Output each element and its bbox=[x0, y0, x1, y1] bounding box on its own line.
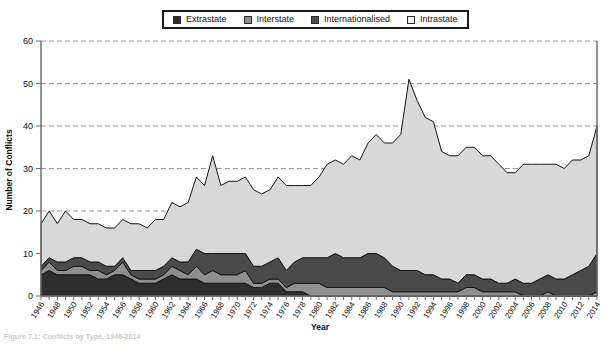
x-tick-label: 1990 bbox=[389, 300, 406, 320]
x-tick-label: 1946 bbox=[29, 300, 46, 320]
x-tick-label: 1956 bbox=[111, 300, 128, 320]
y-tick-labels: 0102030405060 bbox=[23, 36, 33, 301]
x-tick-label: 2006 bbox=[520, 300, 537, 320]
x-tick-label: 1958 bbox=[127, 300, 144, 320]
x-tick-labels: 1946194819501952195419561958196019621964… bbox=[29, 300, 602, 320]
legend-item-internationalised[interactable]: Internationalised bbox=[311, 15, 390, 24]
x-tick-label: 2010 bbox=[552, 300, 569, 320]
legend-item-interstate[interactable]: Interstate bbox=[244, 15, 295, 24]
x-tick-label: 1978 bbox=[291, 300, 308, 320]
y-tick-label: 0 bbox=[28, 291, 33, 301]
x-tick-label: 1960 bbox=[144, 300, 161, 320]
y-axis-title: Number of Conflicts bbox=[4, 129, 14, 210]
x-tick-label: 2004 bbox=[503, 300, 520, 320]
x-tick-label: 2014 bbox=[585, 300, 602, 320]
y-tick-label: 20 bbox=[23, 206, 33, 216]
y-tick-label: 50 bbox=[23, 79, 33, 89]
legend-swatch-intrastate bbox=[407, 16, 415, 24]
x-tick-label: 1992 bbox=[405, 300, 422, 320]
area-series-intrastate bbox=[41, 79, 597, 283]
x-tick-label: 1948 bbox=[45, 300, 62, 320]
y-tick-label: 40 bbox=[23, 121, 33, 131]
x-tick-label: 1986 bbox=[356, 300, 373, 320]
chart-plot: 0102030405060 19461948195019521954195619… bbox=[0, 0, 610, 345]
x-tick-label: 1966 bbox=[193, 300, 210, 320]
x-tick-label: 2008 bbox=[536, 300, 553, 320]
legend-item-intrastate[interactable]: Intrastate bbox=[407, 15, 458, 24]
legend-label-internationalised: Internationalised bbox=[324, 15, 390, 24]
x-tick-label: 1962 bbox=[160, 300, 177, 320]
x-tick-label: 1976 bbox=[274, 300, 291, 320]
x-tick-label: 1980 bbox=[307, 300, 324, 320]
x-tick-label: 1984 bbox=[340, 300, 357, 320]
legend-item-extrastate[interactable]: Extrastate bbox=[173, 15, 227, 24]
legend-label-intrastate: Intrastate bbox=[420, 15, 458, 24]
x-tick-label: 2000 bbox=[471, 300, 488, 320]
x-tick-label: 2002 bbox=[487, 300, 504, 320]
x-tick-label: 1994 bbox=[422, 300, 439, 320]
x-tick-label: 1968 bbox=[209, 300, 226, 320]
legend-label-extrastate: Extrastate bbox=[186, 15, 227, 24]
x-axis-title: Year bbox=[311, 322, 330, 332]
x-tick-label: 1964 bbox=[176, 300, 193, 320]
legend-swatch-extrastate bbox=[173, 16, 181, 24]
x-tick-label: 1998 bbox=[454, 300, 471, 320]
figure-stacked-area-conflicts: Extrastate Interstate Internationalised … bbox=[0, 0, 610, 345]
figure-caption: Figure 7.1: Conflicts by Type, 1946-2014 bbox=[4, 333, 141, 340]
y-tick-label: 10 bbox=[23, 249, 33, 259]
legend-label-interstate: Interstate bbox=[257, 15, 295, 24]
x-tick-label: 1950 bbox=[62, 300, 79, 320]
y-tick-label: 30 bbox=[23, 164, 33, 174]
legend-swatch-interstate bbox=[244, 16, 252, 24]
x-tick-label: 1988 bbox=[373, 300, 390, 320]
x-tick-label: 2012 bbox=[569, 300, 586, 320]
x-tick-label: 1996 bbox=[438, 300, 455, 320]
x-tick-label: 1954 bbox=[95, 300, 112, 320]
y-tick-label: 60 bbox=[23, 36, 33, 46]
chart-legend: Extrastate Interstate Internationalised … bbox=[162, 10, 469, 29]
x-tick-label: 1970 bbox=[225, 300, 242, 320]
x-tick-label: 1982 bbox=[323, 300, 340, 320]
x-tick-label: 1972 bbox=[242, 300, 259, 320]
area-series-layer bbox=[41, 79, 597, 296]
x-tick-label: 1952 bbox=[78, 300, 95, 320]
x-tick-label: 1974 bbox=[258, 300, 275, 320]
legend-swatch-internationalised bbox=[311, 16, 319, 24]
